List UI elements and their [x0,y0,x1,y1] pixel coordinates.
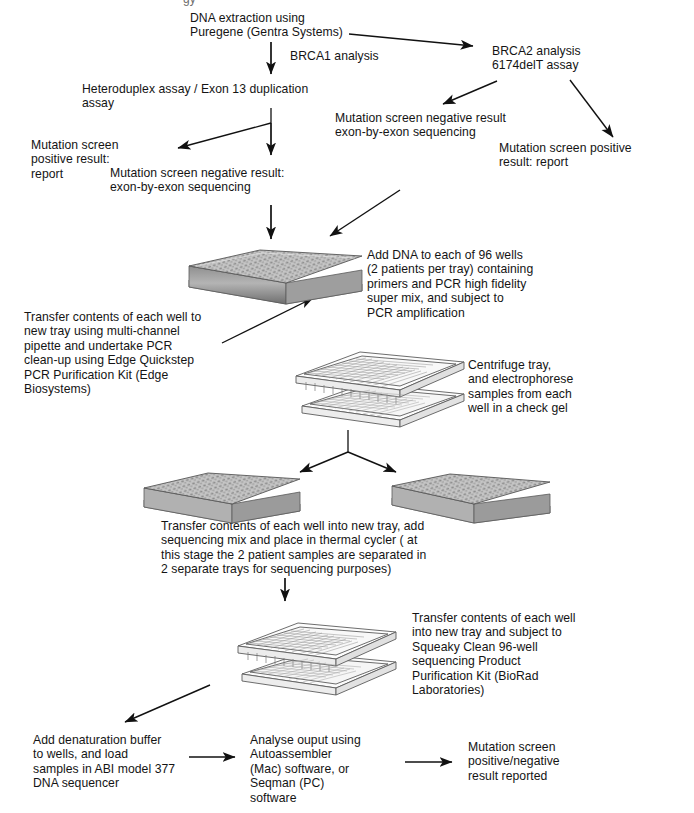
node-final-result: Mutation screen positive/negative result… [468,740,628,783]
node-squeaky-clean: Transfer contents of each well into new … [412,611,622,697]
node-mutation-negative-right: Mutation screen negative result exon-by-… [335,111,575,140]
image-tray-left-sequencing [140,466,302,526]
image-tray-pcr-plate [184,242,364,308]
node-centrifuge-electrophorese: Centrifuge tray, and electrophorese samp… [468,358,638,416]
image-tray-right-sequencing [388,468,552,528]
flowchart-canvas: gy [0,0,694,813]
arrow-brca2-to-negative [443,81,497,104]
cropped-title-fragment: gy [183,0,199,9]
node-brca2-analysis: BRCA2 analysis 6174delT assay [492,44,662,73]
arrow-hetero-split [178,108,271,155]
image-tray-exploded-squeaky [232,608,408,706]
image-tray-exploded-cleanup [288,336,478,440]
arrow-squeaky-to-denature [125,685,210,722]
node-analyse-output: Analyse ouput using Autoassembler (Mac) … [250,733,410,805]
arrow-negright-to-tray [330,190,400,236]
node-dna-extraction: DNA extraction using Puregene (Gentra Sy… [190,11,390,40]
node-denaturation-buffer: Add denaturation buffer to wells, and lo… [33,733,213,791]
node-add-dna-96-wells: Add DNA to each of 96 wells (2 patients … [367,248,597,320]
node-brca1-analysis: BRCA1 analysis [290,49,440,63]
node-mutation-positive-right: Mutation screen positive result: report [499,141,689,170]
node-heteroduplex-assay: Heteroduplex assay / Exon 13 duplication… [82,82,372,111]
node-mutation-negative-left: Mutation screen negative result: exon-by… [110,166,360,195]
node-transfer-pcr-cleanup: Transfer contents of each well to new tr… [24,310,254,396]
arrow-brca2-to-positive [570,80,613,137]
